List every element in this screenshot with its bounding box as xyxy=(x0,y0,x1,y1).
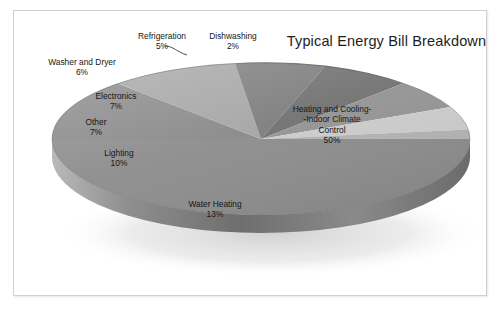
slice-label-washer-and-dryer: Washer and Dryer 6% xyxy=(36,57,128,78)
slice-label-washer-and-dryer-value: 6% xyxy=(36,67,128,77)
slice-label-washer-and-dryer-name: Washer and Dryer xyxy=(36,57,128,67)
slice-label-refrigeration-name: Refrigeration xyxy=(126,31,198,41)
slice-label-refrigeration: Refrigeration 5% xyxy=(126,31,198,52)
slice-label-other-name: Other xyxy=(74,117,118,127)
slice-label-heating-and-cooling-line3: Control xyxy=(279,125,385,135)
slice-label-lighting: Lighting 10% xyxy=(94,148,144,169)
slice-label-heating-and-cooling-line2: -Indoor Climate xyxy=(279,114,385,124)
slice-label-dishwashing: Dishwashing 2% xyxy=(200,31,266,52)
slice-label-water-heating: Water Heating 13% xyxy=(169,199,261,220)
slice-label-electronics-name: Electronics xyxy=(86,91,146,101)
figure-screenshot: Typical Energy Bill Breakdown xyxy=(0,0,501,313)
slice-label-heating-and-cooling: Heating and Cooling- -Indoor Climate Con… xyxy=(279,104,385,145)
slice-label-lighting-value: 10% xyxy=(94,158,144,168)
figure-frame: Typical Energy Bill Breakdown xyxy=(13,10,487,296)
slice-label-electronics: Electronics 7% xyxy=(86,91,146,112)
slice-label-dishwashing-name: Dishwashing xyxy=(200,31,266,41)
slice-label-water-heating-value: 13% xyxy=(169,209,261,219)
slice-label-electronics-value: 7% xyxy=(86,101,146,111)
slice-label-other: Other 7% xyxy=(74,117,118,138)
slice-label-water-heating-name: Water Heating xyxy=(169,199,261,209)
slice-label-lighting-name: Lighting xyxy=(94,148,144,158)
slice-label-refrigeration-value: 5% xyxy=(126,41,198,51)
slice-label-dishwashing-value: 2% xyxy=(200,41,266,51)
pie-top-sheen xyxy=(52,63,470,215)
slice-label-heating-and-cooling-value: 50% xyxy=(279,135,385,145)
slice-label-heating-and-cooling-line1: Heating and Cooling- xyxy=(279,104,385,114)
slice-label-other-value: 7% xyxy=(74,127,118,137)
